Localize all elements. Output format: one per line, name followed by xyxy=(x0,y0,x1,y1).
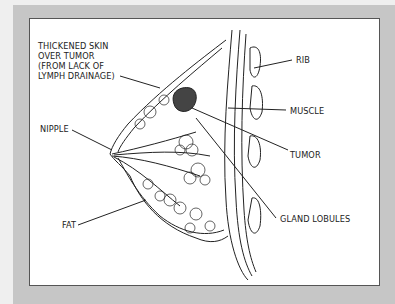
label-nipple: NIPPLE xyxy=(40,124,69,134)
label-rib: RIB xyxy=(296,55,310,65)
leader-tumor xyxy=(192,108,288,150)
leader-muscle xyxy=(228,108,286,110)
label-thickened-skin-3: (FROM LACK OF xyxy=(38,61,104,71)
leader-nipple xyxy=(72,130,112,150)
label-gland-lobules: GLAND LOBULES xyxy=(280,214,350,224)
leader-fat xyxy=(78,200,146,225)
label-thickened-skin-1: THICKENED SKIN xyxy=(38,41,109,51)
leader-thickened-skin xyxy=(120,76,160,88)
leader-rib xyxy=(254,60,292,68)
chest-wall xyxy=(225,30,248,280)
label-fat: FAT xyxy=(62,220,76,230)
label-thickened-skin-2: OVER TUMOR xyxy=(38,51,95,61)
label-muscle: MUSCLE xyxy=(290,106,324,116)
rib-shape xyxy=(250,47,261,77)
label-tumor: TUMOR xyxy=(290,150,321,160)
breast-outline xyxy=(110,40,228,242)
label-thickened-skin-4: LYMPH DRAINAGE) xyxy=(38,71,115,81)
